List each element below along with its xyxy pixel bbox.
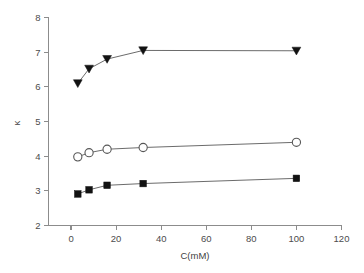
data-point-filled-square — [75, 191, 82, 198]
x-tick-label: 100 — [288, 233, 304, 244]
x-axis-title: C(mM) — [180, 250, 209, 261]
data-point-filled-square — [104, 182, 111, 189]
data-point-open-circle — [103, 145, 111, 153]
data-point-filled-down-triangle — [85, 65, 94, 73]
x-tick-label: 80 — [246, 233, 257, 244]
x-tick-label: 0 — [68, 233, 73, 244]
data-point-filled-down-triangle — [103, 55, 112, 63]
data-point-filled-square — [86, 186, 93, 193]
y-tick-label: 3 — [35, 185, 40, 196]
y-axis-title: κ — [11, 120, 22, 125]
data-point-open-circle — [85, 149, 93, 157]
x-tick-label: 120 — [334, 233, 350, 244]
y-tick-label: 6 — [35, 81, 40, 92]
data-point-filled-square — [140, 180, 147, 187]
x-tick-label: 40 — [156, 233, 167, 244]
data-series — [73, 47, 300, 197]
x-tick-label: 60 — [201, 233, 212, 244]
y-tick-label: 7 — [35, 47, 40, 58]
y-tick-label: 8 — [35, 12, 40, 23]
data-point-open-circle — [74, 153, 82, 161]
y-tick-label: 4 — [35, 151, 40, 162]
data-point-open-circle — [292, 138, 300, 146]
chart-plot-area: 0204060801001202345678 C(mM) κ — [0, 0, 364, 273]
y-tick-label: 2 — [35, 220, 40, 231]
data-point-open-circle — [139, 143, 147, 151]
x-tick-label: 20 — [111, 233, 122, 244]
data-point-filled-square — [293, 175, 300, 182]
y-tick-label: 5 — [35, 116, 40, 127]
chart-figure: 0204060801001202345678 C(mM) κ — [0, 0, 364, 273]
axis-ticks: 0204060801001202345678 — [35, 12, 349, 244]
data-point-filled-down-triangle — [73, 80, 82, 88]
